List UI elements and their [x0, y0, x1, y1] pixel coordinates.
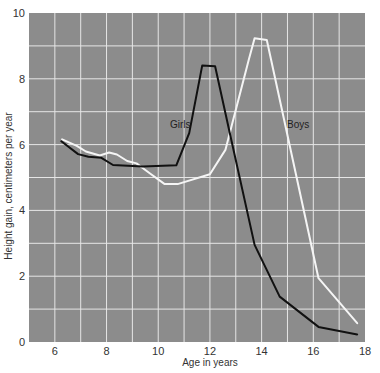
- y-tick-label: 6: [19, 139, 25, 151]
- y-tick-label: 4: [19, 204, 25, 216]
- x-axis-ticks: 681012141618: [52, 345, 371, 357]
- x-axis-title: Age in years: [182, 357, 238, 368]
- x-tick-label: 8: [103, 345, 109, 357]
- x-tick-label: 16: [307, 345, 319, 357]
- y-axis-ticks: 0246810: [13, 7, 25, 348]
- x-tick-label: 10: [152, 345, 164, 357]
- y-tick-label: 2: [19, 270, 25, 282]
- x-tick-label: 6: [52, 345, 58, 357]
- height-gain-chart: 0246810 681012141618 Girls Boys Age in y…: [0, 0, 380, 373]
- y-tick-label: 10: [13, 7, 25, 19]
- y-tick-label: 0: [19, 336, 25, 348]
- x-tick-label: 12: [204, 345, 216, 357]
- x-tick-label: 18: [359, 345, 371, 357]
- boys-series-label: Boys: [287, 119, 309, 130]
- y-axis-title: Height gain, centimeters per year: [3, 112, 14, 260]
- x-tick-label: 14: [255, 345, 267, 357]
- y-tick-label: 8: [19, 73, 25, 85]
- girls-series-label: Girls: [170, 119, 191, 130]
